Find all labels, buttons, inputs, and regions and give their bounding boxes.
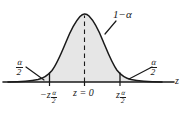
tick-label-critical-positive: zα2 [116, 88, 126, 103]
critical-positive-subscript-denominator: 2 [119, 98, 125, 105]
left-tail-fraction-denominator: 2 [15, 68, 22, 77]
x-axis-label: z [175, 76, 179, 86]
right-tail-alpha-label: α 2 [150, 58, 157, 77]
left-tail-alpha-label: α 2 [16, 58, 23, 77]
critical-negative-subscript: α2 [50, 90, 57, 105]
normal-distribution-figure: 1−α α 2 α 2 −zα2 z = 0 zα2 z [0, 0, 187, 118]
critical-negative-subscript-denominator: 2 [50, 98, 56, 105]
confidence-leader-line [105, 21, 116, 34]
critical-negative-symbol: −z [40, 89, 51, 100]
tick-label-center: z = 0 [73, 88, 94, 98]
tick-label-critical-negative: −zα2 [40, 88, 56, 103]
confidence-level-label: 1−α [113, 9, 132, 20]
left-tail-leader-line [26, 67, 44, 80]
right-tail-fraction: α 2 [149, 58, 157, 77]
critical-positive-subscript: α2 [119, 90, 126, 105]
distribution-plot-svg [0, 0, 187, 118]
right-tail-fraction-denominator: 2 [149, 68, 156, 77]
left-tail-fraction: α 2 [15, 58, 23, 77]
